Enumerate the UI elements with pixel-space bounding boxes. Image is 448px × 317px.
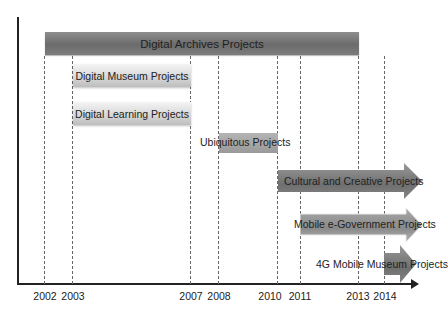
year-label: 2013 — [346, 290, 369, 302]
year-label: 2003 — [61, 290, 84, 302]
year-label: 2014 — [373, 290, 396, 302]
year-label: 2008 — [207, 290, 230, 302]
year-guide-2008 — [218, 56, 219, 284]
year-guide-2003 — [72, 56, 73, 284]
year-guide-2002 — [44, 56, 45, 284]
cultural-creative-arrow: Cultural and Creative Projects — [278, 163, 422, 199]
digital-museum-bar: Digital Museum Projects — [73, 64, 191, 87]
bar-label: Digital Learning Projects — [75, 108, 189, 120]
arrow-label: 4G Mobile Museum Projects — [316, 258, 448, 270]
year-label: 2007 — [179, 290, 202, 302]
year-guide-2007 — [190, 56, 191, 284]
year-label: 2010 — [258, 290, 281, 302]
arrow-label: Mobile e-Government Projects — [294, 218, 436, 230]
bar-label: Digital Archives Projects — [140, 38, 263, 50]
digital-learning-bar: Digital Learning Projects — [73, 102, 191, 125]
arrow-label: Cultural and Creative Projects — [284, 175, 423, 187]
digital-archives-bar: Digital Archives Projects — [45, 32, 359, 55]
year-label: 2002 — [33, 290, 56, 302]
timeline-axis — [17, 283, 413, 285]
year-label: 2011 — [289, 290, 312, 302]
bar-label: Ubiquitous Projects — [200, 136, 290, 148]
bar-label: Digital Museum Projects — [75, 70, 188, 82]
mobile-egov-arrow: Mobile e-Government Projects — [300, 208, 422, 242]
vertical-axis — [17, 17, 19, 285]
